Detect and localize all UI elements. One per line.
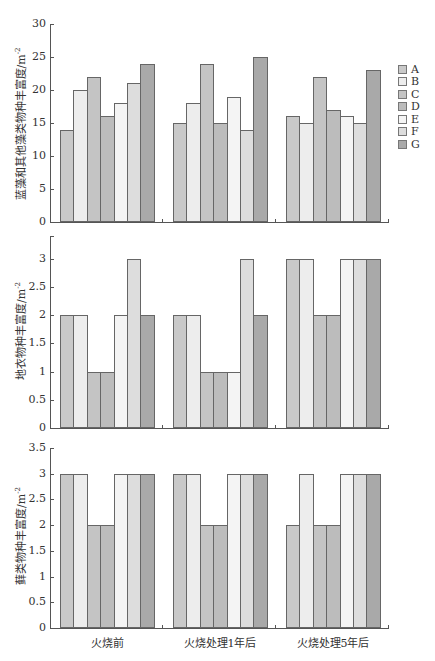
- y-axis-tick: [50, 156, 54, 157]
- bar-D: [100, 116, 114, 222]
- bar-D: [100, 372, 114, 428]
- bar-B: [73, 474, 87, 628]
- legend-label: C: [411, 88, 419, 101]
- bar-G: [366, 474, 380, 628]
- y-axis-label: 藓类物种丰富度/m-2: [12, 436, 28, 636]
- bar-C: [200, 372, 214, 428]
- bar-F: [353, 474, 367, 628]
- bar-A: [60, 474, 74, 628]
- x-axis: [50, 222, 388, 223]
- bar-G: [366, 70, 380, 222]
- bar-D: [326, 525, 340, 628]
- legend-label: E: [411, 113, 419, 126]
- y-axis-tick: [50, 448, 54, 449]
- bar-A: [286, 116, 300, 222]
- bar-B: [299, 123, 313, 222]
- bar-E: [340, 116, 354, 222]
- y-axis-tick: [50, 189, 54, 190]
- y-axis-tick: [50, 57, 54, 58]
- bar-B: [186, 474, 200, 628]
- legend-item-B: B: [398, 76, 420, 89]
- bar-F: [353, 259, 367, 428]
- legend-swatch: [398, 90, 407, 99]
- x-axis-tick: [162, 219, 163, 223]
- bar-G: [253, 474, 267, 628]
- x-axis-tick: [275, 625, 276, 629]
- x-axis-tick: [388, 625, 389, 629]
- bar-F: [240, 130, 254, 222]
- y-axis-tick: [50, 525, 54, 526]
- bar-B: [73, 90, 87, 222]
- y-axis-tick: [50, 287, 54, 288]
- y-axis-tick: [50, 499, 54, 500]
- x-axis-tick: [162, 425, 163, 429]
- bar-C: [200, 64, 214, 222]
- bar-C: [87, 525, 101, 628]
- bar-E: [114, 474, 128, 628]
- bar-E: [227, 372, 241, 428]
- bar-C: [313, 77, 327, 222]
- x-category-label: 火烧前: [52, 634, 162, 650]
- y-axis-tick: [50, 400, 54, 401]
- x-category-label: 火烧处理5年后: [278, 634, 388, 650]
- bar-A: [173, 474, 187, 628]
- legend-item-A: A: [398, 63, 420, 76]
- x-axis-tick: [275, 219, 276, 223]
- legend-item-E: E: [398, 113, 420, 126]
- x-axis: [50, 428, 388, 429]
- bar-B: [186, 103, 200, 222]
- bar-D: [213, 123, 227, 222]
- bar-G: [140, 474, 154, 628]
- bar-F: [240, 259, 254, 428]
- legend-item-D: D: [398, 101, 420, 114]
- x-axis-tick: [275, 425, 276, 429]
- bar-B: [73, 315, 87, 428]
- y-axis-tick: [50, 343, 54, 344]
- y-axis-tick: [50, 259, 54, 260]
- bar-F: [240, 474, 254, 628]
- bar-A: [173, 315, 187, 428]
- x-axis-tick: [162, 625, 163, 629]
- y-axis-tick: [50, 474, 54, 475]
- y-axis-tick: [50, 315, 54, 316]
- legend-item-F: F: [398, 126, 420, 139]
- bar-E: [114, 103, 128, 222]
- legend-item-C: C: [398, 88, 420, 101]
- x-axis-tick: [388, 219, 389, 223]
- legend-label: D: [411, 100, 420, 113]
- bar-D: [100, 525, 114, 628]
- legend-swatch: [398, 65, 407, 74]
- bar-E: [340, 474, 354, 628]
- bar-G: [366, 259, 380, 428]
- y-axis-tick: [50, 24, 54, 25]
- bar-B: [186, 315, 200, 428]
- bar-B: [299, 474, 313, 628]
- bar-C: [200, 525, 214, 628]
- bar-F: [353, 123, 367, 222]
- bar-D: [213, 372, 227, 428]
- legend-label: A: [411, 63, 419, 76]
- x-axis-tick: [388, 425, 389, 429]
- bar-A: [173, 123, 187, 222]
- y-axis-tick: [50, 90, 54, 91]
- bar-A: [60, 315, 74, 428]
- bar-D: [326, 315, 340, 428]
- bar-F: [127, 83, 141, 222]
- bar-G: [140, 64, 154, 222]
- legend-label: F: [411, 125, 419, 138]
- bar-E: [114, 315, 128, 428]
- y-axis-tick: [50, 236, 54, 237]
- bar-F: [127, 474, 141, 628]
- bar-G: [140, 315, 154, 428]
- y-axis-tick: [50, 123, 54, 124]
- bar-C: [313, 525, 327, 628]
- bar-C: [313, 315, 327, 428]
- bar-A: [286, 525, 300, 628]
- y-axis-tick: [50, 577, 54, 578]
- legend-item-G: G: [398, 138, 420, 151]
- legend-swatch: [398, 127, 407, 136]
- y-axis-tick: [50, 428, 54, 429]
- y-axis-label: 地衣物种丰富度/m-2: [12, 231, 28, 431]
- bar-E: [227, 474, 241, 628]
- bar-E: [227, 97, 241, 222]
